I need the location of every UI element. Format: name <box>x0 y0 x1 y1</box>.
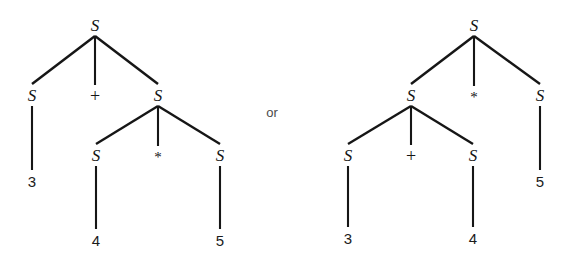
terminal-node: 3 <box>28 174 36 189</box>
operator-node: * <box>470 90 478 105</box>
tree-edge <box>474 36 540 84</box>
nonterminal-node: S <box>470 17 479 34</box>
tree-edge <box>96 106 158 144</box>
tree-edge <box>411 106 473 144</box>
operator-node: * <box>154 150 162 165</box>
nonterminal-node: S <box>28 87 37 104</box>
terminal-node: 4 <box>469 231 477 246</box>
nonterminal-node: S <box>407 87 416 104</box>
tree-edge <box>348 106 411 144</box>
operator-node: + <box>90 87 100 105</box>
tree-edge <box>158 106 220 144</box>
figure-canvas: SS+S3S*S45SS*SS+S534 or <box>0 0 572 259</box>
terminal-node: 5 <box>536 174 544 189</box>
or-connector-label: or <box>266 106 278 119</box>
tree-edge <box>95 36 158 84</box>
nonterminal-node: S <box>536 87 545 104</box>
terminal-node: 3 <box>344 231 352 246</box>
nonterminal-node: S <box>344 147 353 164</box>
terminal-node: 5 <box>216 233 224 248</box>
tree-edge <box>411 36 474 84</box>
nonterminal-node: S <box>91 17 100 34</box>
nonterminal-node: S <box>154 87 163 104</box>
tree-edges-layer <box>0 0 572 259</box>
operator-node: + <box>406 147 416 165</box>
nonterminal-node: S <box>216 147 225 164</box>
tree-edge <box>32 36 95 84</box>
nonterminal-node: S <box>469 147 478 164</box>
terminal-node: 4 <box>92 233 100 248</box>
nonterminal-node: S <box>92 147 101 164</box>
